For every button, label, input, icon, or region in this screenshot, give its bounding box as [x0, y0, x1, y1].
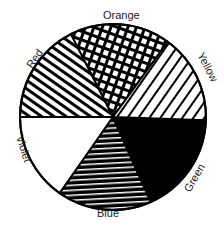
pie-chart: Orange Yellow Green Blue Violet Red — [0, 0, 224, 227]
label-orange: Orange — [103, 9, 140, 21]
label-yellow: Yellow — [195, 50, 220, 83]
label-blue: Blue — [97, 207, 119, 219]
pie — [20, 24, 206, 210]
